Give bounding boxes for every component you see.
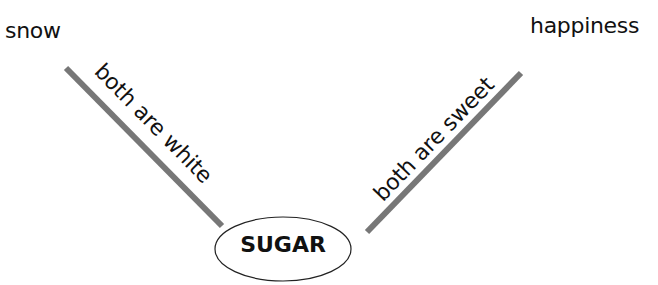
concept-happiness: happiness — [530, 15, 639, 37]
left-connector-line — [66, 68, 222, 226]
right-connector-line — [367, 73, 521, 232]
concept-snow: snow — [5, 20, 61, 42]
concept-sugar: SUGAR — [224, 234, 342, 256]
